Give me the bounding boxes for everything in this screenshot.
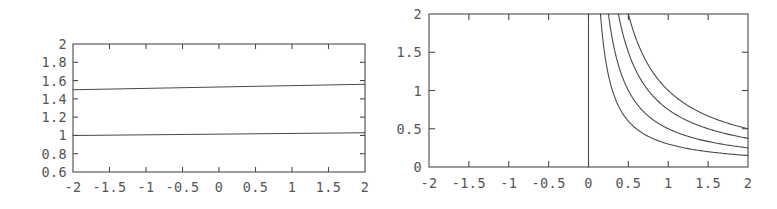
x-tick-label: 0.5 — [616, 175, 642, 191]
x-tick-label: -1 — [137, 179, 154, 195]
x-tick-label: 1.5 — [316, 179, 342, 195]
x-tick-label: 1.5 — [695, 175, 721, 191]
left-plot-svg: -2-1.5-1-0.500.511.520.60.811.21.41.61.8… — [0, 0, 390, 209]
x-tick-label: -2 — [64, 179, 81, 195]
y-tick-label: 0.8 — [41, 146, 67, 162]
y-tick-label: 0.6 — [41, 164, 67, 180]
x-tick-label: 0 — [584, 175, 593, 191]
series-upper-line — [73, 84, 365, 89]
x-tick-label: 2 — [744, 175, 753, 191]
y-tick-label: 0 — [413, 159, 422, 175]
series-hyperbola-c-0.30 — [600, 14, 748, 156]
x-tick-label: 0 — [215, 179, 224, 195]
x-tick-label: -1 — [500, 175, 517, 191]
x-tick-label: 0.5 — [243, 179, 269, 195]
chart-panel-right: -2-1.5-1-0.500.511.5200.511.52 — [390, 0, 777, 209]
chart-panel-left: -2-1.5-1-0.500.511.520.60.811.21.41.61.8… — [0, 0, 390, 209]
x-tick-label: -0.5 — [165, 179, 199, 195]
series-hyperbola-c-0.50 — [608, 14, 748, 148]
x-tick-label: 2 — [361, 179, 370, 195]
figure-container: -2-1.5-1-0.500.511.520.60.811.21.41.61.8… — [0, 0, 777, 209]
series-lower-line — [73, 133, 365, 136]
y-tick-label: 1 — [413, 83, 422, 99]
x-tick-label: -1.5 — [92, 179, 126, 195]
right-plot-svg: -2-1.5-1-0.500.511.5200.511.52 — [390, 0, 777, 209]
y-tick-label: 1.8 — [41, 54, 67, 70]
x-tick-label: -0.5 — [532, 175, 566, 191]
y-tick-label: 1.4 — [41, 91, 67, 107]
plot-frame — [73, 44, 365, 172]
y-tick-label: 1.6 — [41, 73, 67, 89]
y-tick-label: 0.5 — [396, 121, 422, 137]
y-tick-label: 2 — [58, 36, 67, 52]
y-tick-label: 1 — [58, 127, 67, 143]
x-tick-label: 1 — [664, 175, 673, 191]
series-hyperbola-c-0.75 — [618, 14, 748, 138]
y-tick-label: 1.2 — [41, 109, 67, 125]
y-tick-label: 1.5 — [396, 44, 422, 60]
x-tick-label: 1 — [288, 179, 297, 195]
x-tick-label: -2 — [420, 175, 437, 191]
x-tick-label: -1.5 — [452, 175, 486, 191]
y-tick-label: 2 — [413, 6, 422, 22]
series-hyperbola-c-1.00 — [628, 14, 748, 129]
